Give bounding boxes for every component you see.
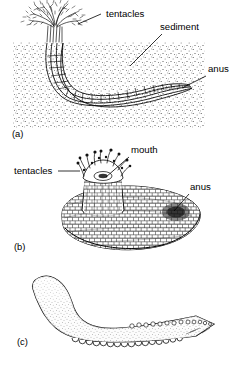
- sediment-block: [13, 42, 205, 128]
- panel-c: (c): [17, 270, 218, 347]
- tentacle-crown-a: [21, 0, 87, 42]
- figure-root: tentacles sediment anus (a): [0, 0, 243, 372]
- mouth-b: [94, 172, 112, 181]
- body-b: [55, 180, 210, 260]
- label-sediment-a: sediment: [160, 21, 199, 32]
- panel-letter-a: (a): [12, 128, 23, 139]
- label-anus-a: anus: [208, 63, 229, 74]
- body-c: [28, 270, 218, 346]
- label-tentacles-b: tentacles: [14, 165, 53, 176]
- leader-tentacles-a: [78, 14, 101, 24]
- anatomy-figure: tentacles sediment anus (a): [0, 0, 243, 372]
- anus-region-b: [162, 203, 190, 221]
- label-tentacles-a: tentacles: [106, 8, 145, 19]
- panel-b: tentacles mouth anus (b): [14, 144, 211, 260]
- panel-a: tentacles sediment anus (a): [12, 0, 229, 139]
- panel-letter-c: (c): [17, 336, 28, 347]
- label-anus-b: anus: [190, 181, 211, 192]
- label-mouth-b: mouth: [131, 144, 158, 155]
- tentacle-crown-b: [77, 148, 132, 183]
- panel-letter-b: (b): [14, 241, 25, 252]
